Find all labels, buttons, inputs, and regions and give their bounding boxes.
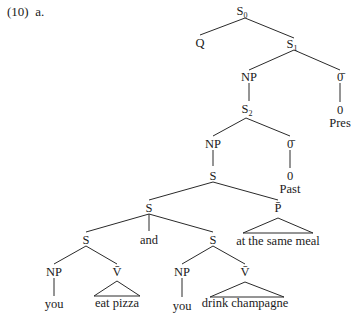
syntax-tree: S0 Q S1 NP 0̄ 0 Pres S2 NP 0̄ 0 Past S S… [0,0,360,320]
tree-triangles [94,218,313,297]
node-past: Past [280,182,301,196]
node-s-left: S [83,233,90,247]
vp-right-text: drink champagne [202,296,289,310]
vp-right-triangle [210,282,284,297]
node-s1: S1 [287,37,298,53]
node-pres: Pres [329,116,351,130]
vp-left-triangle [94,281,140,296]
pp-text: at the same meal [236,234,320,248]
node-np2: NP [205,137,221,151]
vp-left-text: eat pizza [95,296,140,310]
node-obar1: 0̄ [337,70,345,84]
node-np-right: NP [174,265,190,279]
node-np1: NP [241,70,257,84]
pp-triangle [243,218,313,233]
node-np-left: NP [46,265,62,279]
word-you-left: you [45,297,65,311]
node-q: Q [195,36,204,50]
node-zero1: 0 [337,103,343,117]
node-vbar-left: V̄ [112,265,121,279]
node-pbar: P̄ [275,201,282,215]
node-s3: S [210,169,217,183]
node-zero2: 0 [287,169,293,183]
node-s-right: S [210,233,217,247]
tree-edges [54,18,340,297]
word-you-right: you [173,299,193,313]
node-s2: S2 [242,102,253,118]
node-s0: S0 [237,4,248,20]
node-and: and [140,233,159,247]
node-vbar-right: V̄ [240,265,249,279]
node-obar2: 0̄ [287,137,295,151]
node-s-conj: S [146,201,153,215]
